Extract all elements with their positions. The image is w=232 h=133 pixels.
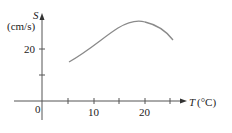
x-axis-unit: (°C) bbox=[197, 96, 216, 109]
x-axis-arrow-icon bbox=[180, 99, 187, 104]
y-axis-arrow-icon bbox=[40, 13, 45, 20]
data-curve bbox=[69, 21, 173, 62]
y-axis-unit: (cm/s) bbox=[7, 20, 35, 33]
x-axis-symbol: T bbox=[189, 96, 196, 108]
chart: S (cm/s) 20 0 10 20 T (°C) bbox=[0, 0, 232, 133]
x-tick-label-20: 20 bbox=[139, 106, 151, 118]
y-tick-label-20: 20 bbox=[24, 43, 36, 55]
origin-label: 0 bbox=[35, 103, 41, 115]
x-tick-label-10: 10 bbox=[88, 106, 100, 118]
